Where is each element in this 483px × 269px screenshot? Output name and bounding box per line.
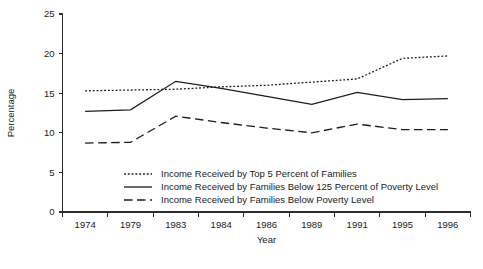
- y-axis-ticks: 0510152025: [44, 8, 63, 217]
- series-line-below-poverty: [85, 116, 448, 143]
- x-axis-title: Year: [257, 234, 276, 245]
- chart-legend: Income Received by Top 5 Percent of Fami…: [124, 168, 438, 205]
- y-tick-label: 10: [44, 127, 55, 138]
- y-tick-label: 15: [44, 88, 55, 99]
- y-tick-label: 0: [49, 206, 54, 217]
- x-tick-label: 1991: [347, 219, 368, 230]
- chart-container: 0510152025 19741979198319841986198919911…: [0, 0, 483, 269]
- y-tick-label: 25: [44, 8, 55, 19]
- x-tick-label: 1989: [301, 219, 322, 230]
- legend-label: Income Received by Families Below Povert…: [161, 194, 374, 205]
- legend-label: Income Received by Families Below 125 Pe…: [161, 181, 438, 192]
- x-tick-label: 1974: [75, 219, 96, 230]
- x-tick-label: 1984: [211, 219, 232, 230]
- series-layer: [85, 56, 448, 143]
- line-chart: 0510152025 19741979198319841986198919911…: [0, 0, 483, 269]
- series-line-top-5-percent: [85, 56, 448, 91]
- x-tick-label: 1983: [165, 219, 186, 230]
- y-tick-label: 20: [44, 48, 55, 59]
- y-tick-label: 5: [49, 167, 54, 178]
- series-line-below-125-percent-poverty: [85, 81, 448, 111]
- x-axis-ticks: 197419791983198419861989199119951996: [63, 212, 471, 230]
- x-tick-label: 1979: [120, 219, 141, 230]
- y-axis-title: Percentage: [5, 89, 16, 138]
- x-tick-label: 1986: [256, 219, 277, 230]
- x-tick-label: 1995: [392, 219, 413, 230]
- legend-label: Income Received by Top 5 Percent of Fami…: [161, 168, 357, 179]
- x-tick-label: 1996: [437, 219, 458, 230]
